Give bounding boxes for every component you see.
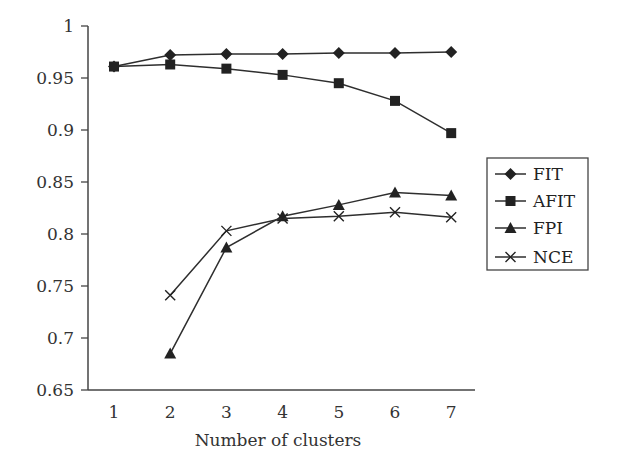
diamond-marker-icon — [389, 47, 401, 59]
y-tick-label: 0.85 — [36, 172, 74, 192]
series-afit — [109, 59, 456, 138]
x-axis-title: Number of clusters — [195, 430, 362, 450]
square-legend-icon — [506, 196, 516, 206]
series-group — [108, 46, 457, 359]
square-marker-icon — [221, 64, 231, 74]
square-marker-icon — [334, 78, 344, 88]
diamond-marker-icon — [277, 48, 289, 60]
series-line — [170, 192, 451, 353]
y-tick-label: 0.75 — [36, 276, 74, 296]
legend-label: NCE — [533, 247, 573, 267]
x-tick-label: 3 — [221, 402, 232, 422]
diamond-marker-icon — [445, 46, 457, 58]
legend-label: AFIT — [532, 191, 576, 211]
legend-label: FIT — [533, 164, 564, 184]
diamond-marker-icon — [333, 47, 345, 59]
x-marker-icon — [165, 290, 175, 300]
x-tick-label: 4 — [277, 402, 288, 422]
x-tick-label: 7 — [446, 402, 457, 422]
axes: 0.650.70.750.80.850.90.9511234567 — [36, 16, 475, 422]
y-tick-label: 0.9 — [47, 120, 74, 140]
legend-label: FPI — [533, 218, 563, 238]
legend: FITAFITFPINCE — [487, 158, 588, 270]
series-fpi — [164, 186, 457, 358]
diamond-marker-icon — [220, 48, 232, 60]
square-marker-icon — [165, 59, 175, 69]
x-marker-icon — [221, 226, 231, 236]
triangle-marker-icon — [164, 348, 176, 359]
x-tick-label: 1 — [109, 402, 120, 422]
square-marker-icon — [446, 128, 456, 138]
x-tick-label: 5 — [333, 402, 344, 422]
y-tick-label: 0.7 — [47, 328, 74, 348]
x-tick-label: 2 — [165, 402, 176, 422]
y-tick-label: 0.8 — [47, 224, 74, 244]
series-fit — [108, 46, 457, 73]
y-tick-label: 0.65 — [36, 380, 74, 400]
square-marker-icon — [109, 62, 119, 72]
square-marker-icon — [390, 96, 400, 106]
y-tick-label: 0.95 — [36, 68, 74, 88]
x-tick-label: 6 — [390, 402, 401, 422]
series-nce — [165, 207, 456, 300]
square-marker-icon — [278, 70, 288, 80]
diamond-marker-icon — [164, 49, 176, 61]
y-tick-label: 1 — [63, 16, 74, 36]
triangle-marker-icon — [220, 242, 232, 253]
series-line — [170, 212, 451, 295]
line-chart: 0.650.70.750.80.850.90.9511234567 FITAFI… — [0, 0, 618, 474]
